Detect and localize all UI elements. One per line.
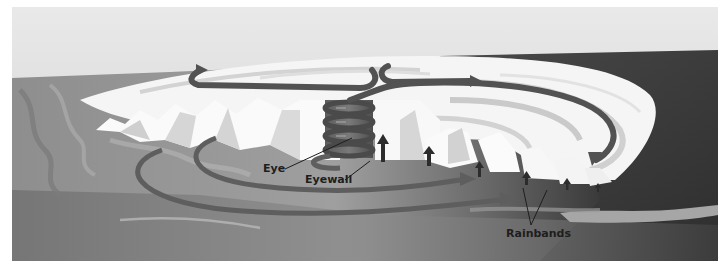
label-rainbands: Rainbands [506,228,571,239]
hurricane-diagram: Eye Eyewall Rainbands [0,0,728,271]
label-eye: Eye [263,163,285,174]
label-eyewall: Eyewall [305,174,352,185]
hurricane-illustration [0,0,728,271]
eyewall-spiral [325,100,373,158]
